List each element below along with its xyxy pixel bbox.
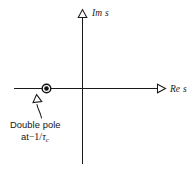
s-plane-pole-diagram: Ims Res Double pole at−1/τc — [0, 0, 193, 171]
caption-line-2: at−1/τc — [9, 131, 101, 146]
real-axis-label-prefix: Re — [169, 84, 180, 94]
real-axis-label-variable: s — [183, 84, 187, 94]
imaginary-axis-label: Ims — [91, 8, 109, 18]
caption-line-2-prefix: at — [21, 131, 29, 142]
real-axis-arrowhead-icon — [158, 84, 166, 93]
caption-tau-subscript: c — [46, 136, 49, 144]
double-pole-dot-icon — [44, 86, 49, 91]
imaginary-axis-arrowhead-icon — [78, 10, 87, 18]
real-axis-label: Res — [169, 84, 187, 94]
caption-numerator: 1/ — [34, 131, 42, 142]
imaginary-axis-label-variable: s — [105, 8, 109, 18]
imaginary-axis-label-prefix: Im — [91, 8, 102, 18]
annotation-leader-arrowhead-icon — [33, 95, 42, 103]
caption-line-1: Double pole — [9, 119, 101, 131]
pole-annotation-caption: Double pole at−1/τc — [9, 119, 101, 147]
annotation-leader-curve — [37, 105, 42, 119]
